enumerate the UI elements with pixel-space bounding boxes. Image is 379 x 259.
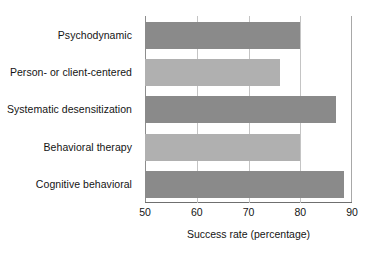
category-label: Systematic desensitization: [7, 96, 132, 123]
x-tick-label: 90: [346, 206, 358, 218]
bar-chart: Psychodynamic Person- or client-centered…: [0, 0, 379, 259]
x-tick-label: 70: [243, 206, 255, 218]
x-tick-label: 50: [139, 206, 151, 218]
bar: [145, 96, 336, 123]
x-axis-title: Success rate (percentage): [145, 228, 352, 240]
bar: [145, 59, 280, 86]
category-axis-labels: Psychodynamic Person- or client-centered…: [0, 22, 140, 203]
x-tick-label: 60: [191, 206, 203, 218]
plot-area: [145, 16, 352, 203]
bar: [145, 134, 300, 161]
x-tick-label: 80: [294, 206, 306, 218]
category-label: Cognitive behavioral: [36, 171, 132, 198]
bar: [145, 22, 300, 49]
category-label: Psychodynamic: [58, 22, 132, 49]
category-label: Person- or client-centered: [10, 59, 132, 86]
category-label: Behavioral therapy: [44, 134, 132, 161]
bar-series: [145, 16, 352, 203]
x-axis-tick-labels: 5060708090: [145, 206, 352, 222]
bar: [145, 171, 344, 198]
